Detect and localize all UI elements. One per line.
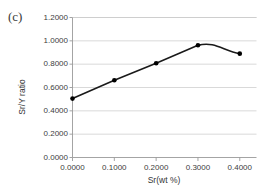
- x-tick-label: 0.3000: [186, 164, 210, 172]
- chart-figure: (c) 0.00000.20000.40000.60000.80001.0000…: [0, 0, 273, 193]
- x-axis-tick-labels: 0.00000.10000.20000.30000.4000: [0, 0, 273, 193]
- x-tick-label: 0.0000: [60, 164, 84, 172]
- x-tick-label: 0.4000: [228, 164, 252, 172]
- x-tick-label: 0.2000: [144, 164, 168, 172]
- x-tick-label: 0.1000: [102, 164, 126, 172]
- x-axis-title: Sr(wt %): [148, 176, 181, 185]
- y-axis-title: Sr/Y ratio: [18, 79, 27, 114]
